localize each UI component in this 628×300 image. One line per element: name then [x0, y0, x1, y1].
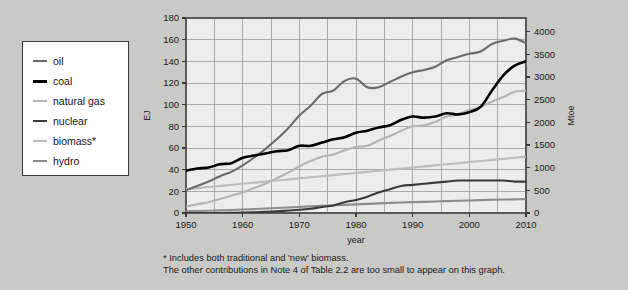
legend-swatch-icon — [33, 100, 47, 102]
y-axis-left: 020406080100120140160180 — [163, 12, 186, 218]
legend-item-biomass[interactable]: biomass* — [23, 131, 128, 151]
y-tick-label-left: 80 — [168, 121, 179, 132]
legend-swatch-icon — [33, 80, 47, 83]
legend-item-naturalgas[interactable]: natural gas — [23, 91, 128, 111]
y-tick-label-left: 60 — [168, 142, 179, 153]
legend-item-hydro[interactable]: hydro — [23, 151, 128, 171]
legend-item-nuclear[interactable]: nuclear — [23, 111, 128, 131]
y-tick-label-right: 0 — [534, 207, 539, 218]
y-tick-label-left: 140 — [163, 56, 179, 67]
y-tick-label-right: 3000 — [534, 71, 555, 82]
x-axis-title: year — [347, 235, 365, 245]
legend-item-label: oil — [53, 56, 64, 67]
y-tick-label-left: 160 — [163, 34, 179, 45]
y-tick-label-right: 3500 — [534, 49, 555, 60]
y-axis-title-left: EJ — [142, 110, 152, 121]
legend-item-label: hydro — [53, 156, 79, 167]
y-tick-label-right: 2000 — [534, 117, 555, 128]
y-tick-label-left: 100 — [163, 99, 179, 110]
x-axis: 1950196019701980199020002010 — [175, 213, 536, 230]
y-tick-label-left: 20 — [168, 186, 179, 197]
y-tick-label-right: 1500 — [534, 139, 555, 150]
x-tick-label: 1960 — [232, 219, 253, 230]
legend-swatch-icon — [33, 140, 47, 142]
x-tick-label: 1950 — [175, 219, 196, 230]
y-tick-label-right: 4000 — [534, 26, 555, 37]
y-tick-label-right: 500 — [534, 185, 550, 196]
x-tick-label: 1990 — [402, 219, 423, 230]
x-tick-label: 2000 — [459, 219, 480, 230]
y-tick-label-left: 0 — [174, 207, 179, 218]
y-axis-title-right: Mtoe — [566, 105, 576, 125]
chart-footnote: * Includes both traditional and 'new' bi… — [163, 252, 613, 276]
legend-swatch-icon — [33, 120, 47, 122]
y-tick-label-left: 180 — [163, 12, 179, 23]
y-tick-label-left: 40 — [168, 164, 179, 175]
legend-item-label: biomass* — [53, 136, 96, 147]
footnote-line-1: * Includes both traditional and 'new' bi… — [163, 252, 613, 264]
legend-item-coal[interactable]: coal — [23, 71, 128, 91]
x-tick-label: 1980 — [345, 219, 366, 230]
y-tick-label-left: 120 — [163, 77, 179, 88]
figure-panel: 0204060801001201401601800500100015002000… — [0, 0, 628, 300]
y-tick-label-right: 2500 — [534, 94, 555, 105]
footnote-line-2: The other contributions in Note 4 of Tab… — [163, 264, 613, 276]
legend-swatch-icon — [33, 60, 47, 62]
chart-legend: oilcoalnatural gasnuclearbiomass*hydro — [22, 41, 129, 176]
legend-item-oil[interactable]: oil — [23, 51, 128, 71]
legend-item-label: nuclear — [53, 116, 87, 127]
legend-swatch-icon — [33, 160, 47, 162]
y-axis-right: 05001000150020002500300035004000 — [526, 26, 555, 218]
legend-item-label: natural gas — [53, 96, 105, 107]
x-tick-label: 2010 — [515, 219, 536, 230]
x-tick-label: 1970 — [289, 219, 310, 230]
legend-item-label: coal — [53, 76, 72, 87]
y-tick-label-right: 1000 — [534, 162, 555, 173]
